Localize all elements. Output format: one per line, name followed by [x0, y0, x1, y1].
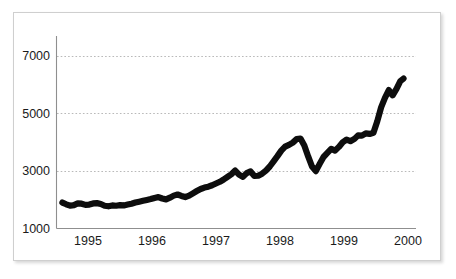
x-tick-label-1996: 1996 [138, 234, 166, 248]
x-axis-tick-labels: 199519961997199819992000 [74, 234, 422, 248]
y-tick-label-7000: 7000 [22, 49, 50, 63]
x-tick-label-1998: 1998 [266, 234, 294, 248]
y-tick-label-5000: 5000 [22, 107, 50, 121]
x-tick-label-1995: 1995 [74, 234, 102, 248]
x-tick-label-2000: 2000 [394, 234, 422, 248]
x-tick-label-1997: 1997 [202, 234, 230, 248]
y-tick-label-1000: 1000 [22, 222, 50, 236]
y-axis-tick-labels: 1000300050007000 [22, 49, 50, 236]
y-tick-label-3000: 3000 [22, 164, 50, 178]
x-tick-label-1999: 1999 [330, 234, 358, 248]
data-series-line [62, 79, 403, 207]
line-chart: 1000300050007000 19951996199719981999200… [0, 0, 456, 279]
gridlines [57, 57, 416, 172]
